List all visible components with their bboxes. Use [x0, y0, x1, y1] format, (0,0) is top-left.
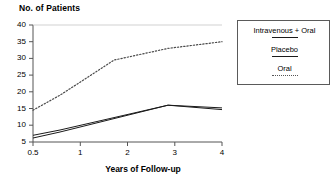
- y-tick-label: 30: [6, 53, 26, 62]
- legend-item-placebo: Placebo: [238, 45, 331, 60]
- series-line-placebo: [33, 105, 222, 138]
- legend-label: Placebo: [238, 45, 331, 54]
- series-line-intravenous-plus-oral: [33, 105, 222, 135]
- x-axis-title: Years of Follow-up: [63, 164, 223, 174]
- y-tick-label: 35: [6, 37, 26, 46]
- legend-item-oral: Oral: [238, 64, 331, 79]
- chart-figure: No. of Patients 40 35 30: [0, 0, 336, 180]
- legend-label: Intravenous + Oral: [238, 26, 331, 35]
- legend: Intravenous + Oral Placebo Oral: [237, 20, 330, 85]
- y-tick-label: 20: [6, 87, 26, 96]
- legend-swatch-solid-icon: [272, 56, 298, 60]
- y-tick-label: 40: [6, 20, 26, 29]
- x-tick-label: 2: [118, 148, 138, 157]
- legend-item-intravenous-plus-oral: Intravenous + Oral: [238, 26, 331, 41]
- legend-swatch-solid-icon: [272, 37, 298, 41]
- x-tick-label: 1: [70, 148, 90, 157]
- x-tick-label: 0.5: [23, 148, 43, 157]
- x-tick-label: 4: [212, 148, 232, 157]
- series-line-oral: [33, 42, 222, 111]
- x-tick-label: 3: [165, 148, 185, 157]
- y-tick-label: 25: [6, 70, 26, 79]
- axis-frame: [33, 25, 222, 142]
- y-tick-label: 10: [6, 120, 26, 129]
- x-tick-marks: [33, 142, 222, 146]
- y-tick-marks: [29, 25, 33, 142]
- y-tick-label: 15: [6, 104, 26, 113]
- y-tick-label: 5: [6, 137, 26, 146]
- legend-swatch-dotted-icon: [272, 75, 298, 79]
- legend-label: Oral: [238, 64, 331, 73]
